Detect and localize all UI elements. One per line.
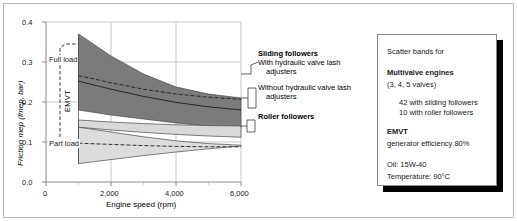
friction-mep-plot — [8, 8, 363, 213]
callout-without-hvla-line2: adjusters — [266, 92, 296, 102]
ytick-label-0: 0.0 — [22, 178, 32, 187]
legend-detail-sliding: 42 with sliding followers — [399, 98, 478, 107]
legend-shadow-right — [497, 40, 503, 192]
legend-intro: Scatter bands for — [387, 47, 444, 56]
x-axis-title: Engine speed (rpm) — [106, 200, 176, 209]
callout-roller-heading: Roller followers — [258, 112, 314, 122]
chart-area: 0.4 0.3 0.2 0.1 0.0 0 2,000 4,000 6,000 … — [8, 8, 363, 213]
y-axis-title: Friction mep (fmep, bar) — [16, 81, 25, 166]
legend-group-title: Multivalve engines — [387, 68, 454, 77]
ytick-label-4: 0.4 — [22, 18, 32, 27]
xtick-label-3: 6,000 — [230, 189, 249, 198]
legend-emvt-title: EMVT — [387, 127, 408, 136]
ytick-label-3: 0.3 — [22, 58, 32, 67]
annotation-emvt: EMVT — [63, 90, 72, 112]
callout-leaders — [241, 62, 258, 132]
xtick-label-0: 0 — [43, 189, 47, 198]
legend-oil: Oil: 15W-40 — [387, 160, 426, 169]
annotation-part-load: Part load — [48, 139, 80, 148]
xtick-label-1: 2,000 — [100, 189, 119, 198]
legend-detail-roller: 10 with roller followers — [399, 108, 473, 117]
annotation-full-load: Full load — [48, 55, 78, 64]
legend-group-sub: (3, 4, 5 valves) — [387, 80, 436, 89]
legend-shadow-bottom — [383, 186, 503, 192]
xtick-label-2: 4,000 — [165, 189, 184, 198]
legend-emvt-sub: generator efficiency 80% — [387, 139, 469, 148]
legend-temperature: Temperature: 90°C — [387, 172, 450, 181]
callout-sliding-line2: adjusters — [266, 67, 296, 77]
figure-root: 0.4 0.3 0.2 0.1 0.0 0 2,000 4,000 6,000 … — [0, 0, 517, 221]
legend-panel: Scatter bands for Multivalve engines (3,… — [377, 34, 497, 186]
